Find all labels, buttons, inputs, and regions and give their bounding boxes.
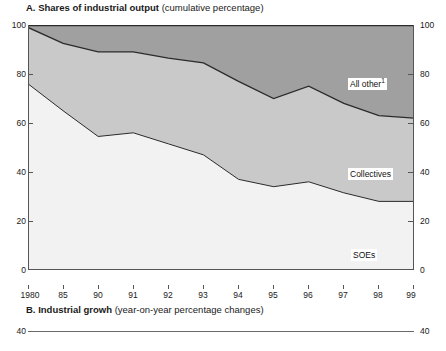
y-tick-mark-right-80 [408, 74, 413, 75]
y-axis-left-label-40: 40 [0, 168, 26, 177]
y-tick-mark-right-20 [408, 221, 413, 222]
y-tick-mark-left-60 [28, 123, 33, 124]
x-axis-label-85: 85 [58, 291, 67, 300]
panel-a-letter: A. [26, 2, 36, 13]
series-label-soes: SOEs [351, 249, 377, 261]
y-axis-left-label-100: 100 [0, 21, 26, 30]
panel-b-title-sub: (year-on-year percentage changes) [115, 304, 264, 315]
x-tick-mark-1980 [28, 285, 29, 289]
x-tick-mark-92 [168, 285, 169, 289]
y-axis-left-label-60: 60 [0, 119, 26, 128]
panel-b-title: B. Industrial growh (year-on-year percen… [26, 304, 264, 316]
footnote-marker-1: 1 [381, 77, 385, 84]
x-axis-label-92: 92 [163, 291, 172, 300]
x-tick-mark-99 [413, 285, 414, 289]
x-tick-mark-98 [378, 285, 379, 289]
stacked-area-svg [28, 25, 414, 270]
x-axis-label-99: 99 [406, 291, 415, 300]
x-axis-label-90: 90 [93, 291, 102, 300]
y-axis-right-label-100: 100 [420, 21, 446, 30]
y-axis-left-label-20: 20 [0, 217, 26, 226]
x-axis-label-98: 98 [373, 291, 382, 300]
y-axis-right-label-20: 20 [420, 217, 446, 226]
panel-b-y-label-right-40: 40 [420, 327, 446, 336]
y-tick-mark-left-20 [28, 221, 33, 222]
y-axis-right-label-0: 0 [420, 266, 446, 275]
panel-b-y-label-left-40: 40 [0, 327, 26, 336]
x-axis-label-96: 96 [303, 291, 312, 300]
x-tick-mark-93 [203, 285, 204, 289]
panel-a-title: A. Shares of industrial output (cumulati… [26, 2, 264, 14]
x-axis-label-95: 95 [268, 291, 277, 300]
x-tick-mark-97 [343, 285, 344, 289]
x-tick-mark-90 [98, 285, 99, 289]
x-axis-label-93: 93 [198, 291, 207, 300]
x-axis-label-97: 97 [338, 291, 347, 300]
panel-b-title-main: Industrial growh [38, 304, 112, 315]
x-axis-label-1980: 1980 [21, 291, 40, 300]
y-tick-mark-right-60 [408, 123, 413, 124]
y-axis-right-label-40: 40 [420, 168, 446, 177]
x-tick-mark-95 [273, 285, 274, 289]
x-tick-mark-91 [133, 285, 134, 289]
y-tick-mark-left-80 [28, 74, 33, 75]
x-axis-label-91: 91 [128, 291, 137, 300]
y-axis-right-label-80: 80 [420, 70, 446, 79]
panel-b-chart: 40 40 [0, 320, 446, 351]
y-axis-right-label-60: 60 [420, 119, 446, 128]
series-label-all-other: All other1 [348, 78, 387, 90]
y-tick-mark-right-40 [408, 172, 413, 173]
y-axis-left-label-0: 0 [0, 266, 26, 275]
x-tick-mark-85 [63, 285, 64, 289]
y-axis-left-label-80: 80 [0, 70, 26, 79]
panel-b-top-axis-line [28, 331, 414, 332]
x-axis-label-94: 94 [233, 291, 242, 300]
panel-b-letter: B. [26, 304, 36, 315]
series-label-all-other-text: All other [350, 79, 381, 89]
x-tick-mark-94 [238, 285, 239, 289]
panel-a-title-sub: (cumulative percentage) [162, 2, 264, 13]
panel-a-plot-area [28, 25, 414, 270]
panel-a-title-main: Shares of industrial output [38, 2, 159, 13]
x-tick-mark-96 [308, 285, 309, 289]
panel-a-chart: 100 80 60 40 20 0 100 80 60 40 20 0 All … [0, 20, 446, 282]
y-tick-mark-left-40 [28, 172, 33, 173]
series-label-collectives: Collectives [348, 168, 393, 180]
